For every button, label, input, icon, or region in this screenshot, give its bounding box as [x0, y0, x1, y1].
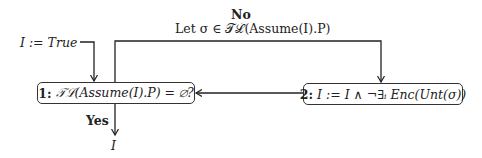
- output-label: I: [111, 139, 116, 153]
- yes-label: Yes: [86, 114, 109, 128]
- no-label: No: [231, 8, 251, 22]
- node-2-expression: I := I ∧ ¬∃ᵢ Enc(Unt(σ)): [317, 87, 466, 102]
- init-to-node1-arrow: [80, 42, 94, 81]
- init-label: I := True: [20, 36, 77, 50]
- node-1-check-empty: 1: 𝒯ℒ(Assume(I).P) = ∅?: [37, 82, 195, 104]
- no-branch-arrow: [115, 41, 381, 82]
- no-condition-text: Let σ ∈ 𝒯ℒ(Assume(I).P): [175, 22, 330, 36]
- node-2-strengthen-invariant: 2: I := I ∧ ¬∃ᵢ Enc(Unt(σ)): [303, 83, 463, 105]
- node-2-number: 2:: [300, 87, 313, 102]
- node-1-expression: 𝒯ℒ(Assume(I).P) = ∅?: [56, 85, 194, 101]
- node-1-number: 1:: [38, 86, 51, 101]
